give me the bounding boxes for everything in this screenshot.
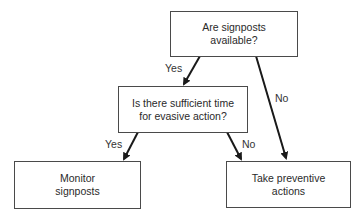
node-text-line2: actions (252, 185, 326, 198)
node-text-line2: for evasive action? (132, 110, 234, 123)
edge-label-q1-yes: Yes (165, 62, 182, 74)
node-text-line2: signposts (55, 185, 99, 198)
node-text-line2: available? (202, 34, 266, 47)
node-text-line1: Are signposts (202, 21, 266, 34)
edge-label-q2-no: No (242, 138, 255, 150)
edge-label-q1-no: No (275, 92, 288, 104)
arrow-q1-no (256, 56, 286, 158)
outcome-take-preventive-actions: Take preventive actions (226, 161, 351, 208)
edge-label-q2-yes: Yes (105, 138, 122, 150)
arrow-q2-yes (124, 132, 138, 159)
node-text-line1: Monitor (55, 172, 99, 185)
arrow-q1-yes (184, 56, 200, 84)
node-text-line1: Is there sufficient time (132, 97, 234, 110)
decision-signposts-available: Are signposts available? (170, 11, 298, 57)
decision-sufficient-time: Is there sufficient time for evasive act… (118, 86, 248, 133)
arrow-q2-no (227, 132, 241, 159)
outcome-monitor-signposts: Monitor signposts (14, 161, 141, 209)
node-text-line1: Take preventive (252, 172, 326, 185)
